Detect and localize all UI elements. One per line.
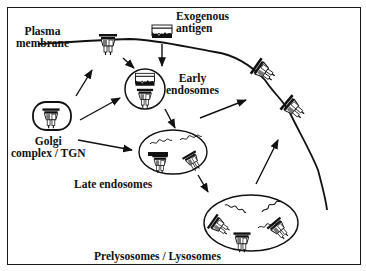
label-line: endosomes [166, 84, 219, 96]
label-line: complex / TGN [11, 147, 86, 159]
label-line: Early [166, 72, 219, 84]
label-line: Golgi [11, 135, 86, 147]
label-late-endosomes: Late endosomes [74, 178, 152, 190]
mhc-molecule-icon [279, 94, 308, 123]
label-golgi: Golgi complex / TGN [11, 135, 86, 159]
arrow-golgi-to-late [78, 140, 132, 150]
label-prelysosomes: Prelysosomes / Lysosomes [94, 250, 221, 262]
arrow-golgi-to-membrane [76, 70, 92, 96]
label-line: Exogenous [176, 10, 229, 22]
mhc-molecule-icon [250, 57, 279, 85]
label-early-endosomes: Early endosomes [166, 72, 219, 96]
arrow-early-to-late [165, 109, 175, 128]
mhc-molecule-icon [99, 34, 117, 55]
label-exogenous-antigen: Exogenous antigen [176, 10, 229, 34]
label-line: antigen [176, 22, 229, 34]
arrow-membrane-to-early [123, 58, 134, 68]
arrow-golgi-to-early [80, 98, 120, 120]
exogenous-antigen-icon [152, 25, 172, 38]
arrow-late-to-membrane [200, 100, 246, 118]
arrow-late-to-lysosome [198, 175, 208, 192]
antigen-icon [136, 73, 155, 85]
label-plasma-membrane: Plasma membrane [16, 25, 69, 49]
label-line: membrane [16, 37, 69, 49]
label-line: Plasma [16, 25, 69, 37]
arrow-lysosome-to-membrane [256, 140, 278, 184]
